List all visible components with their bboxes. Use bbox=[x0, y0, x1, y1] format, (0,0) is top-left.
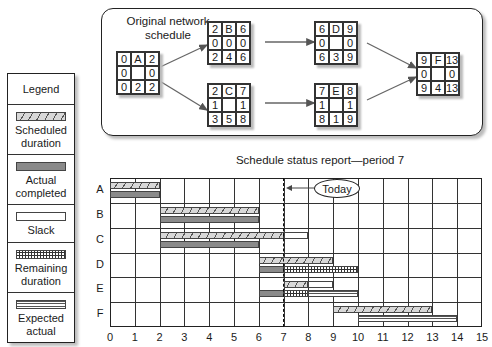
node-cell: 0 bbox=[222, 36, 236, 50]
remaining-swatch-icon bbox=[16, 250, 66, 259]
node-cell: 1 bbox=[343, 98, 357, 112]
network-node-f: 9F13009413 bbox=[416, 52, 460, 96]
node-cell: 1 bbox=[236, 98, 250, 112]
node-cell: 9 bbox=[417, 81, 431, 95]
node-cell: 9 bbox=[343, 50, 357, 64]
actual-bar-a bbox=[110, 191, 160, 198]
node-cell: 0 bbox=[445, 67, 459, 81]
node-cell: 0 bbox=[117, 80, 131, 94]
node-cell: A bbox=[131, 52, 145, 66]
legend-item-remaining: Remaining duration bbox=[8, 243, 74, 293]
network-node-b: 2B6000246 bbox=[207, 21, 251, 65]
node-cell: 13 bbox=[445, 81, 459, 95]
expected-bar-f bbox=[358, 315, 457, 322]
scheduled-swatch-icon bbox=[16, 112, 66, 121]
legend-label: Remaining duration bbox=[8, 262, 74, 288]
node-cell: 0 bbox=[145, 66, 159, 80]
network-node-a: 0A200022 bbox=[116, 51, 160, 95]
x-tick-label: 0 bbox=[100, 331, 120, 343]
actual-bar-d bbox=[259, 266, 284, 273]
node-cell: 2 bbox=[145, 80, 159, 94]
x-tick-label: 12 bbox=[398, 331, 418, 343]
x-tick-label: 3 bbox=[174, 331, 194, 343]
legend-item-slack: Slack bbox=[8, 205, 74, 243]
x-tick-label: 14 bbox=[447, 331, 467, 343]
node-cell: B bbox=[222, 22, 236, 36]
scheduled-bar-b bbox=[160, 207, 259, 214]
node-cell: 2 bbox=[208, 50, 222, 64]
slack-bar-c bbox=[284, 232, 309, 239]
node-cell: 2 bbox=[208, 84, 222, 98]
node-cell: 6 bbox=[315, 22, 329, 36]
node-cell: 0 bbox=[315, 36, 329, 50]
row-label: B bbox=[94, 208, 106, 220]
node-cell bbox=[329, 98, 343, 112]
scheduled-bar-d bbox=[259, 257, 333, 264]
scheduled-bar-f bbox=[333, 306, 432, 313]
x-tick-label: 7 bbox=[274, 331, 294, 343]
x-tick-label: 13 bbox=[422, 331, 442, 343]
legend-label: Actual completed bbox=[8, 174, 74, 200]
network-node-c: 2C711358 bbox=[207, 83, 251, 127]
row-label: A bbox=[94, 183, 106, 195]
legend-item-expected: Expected actual bbox=[8, 293, 74, 340]
x-tick-label: 6 bbox=[249, 331, 269, 343]
legend-item-actual: Actual completed bbox=[8, 155, 74, 205]
node-cell: 9 bbox=[417, 53, 431, 67]
actual-swatch-icon bbox=[16, 162, 66, 171]
node-cell: 9 bbox=[343, 22, 357, 36]
actual-bar-c bbox=[160, 241, 259, 248]
node-cell: C bbox=[222, 84, 236, 98]
chart-title: Schedule status report—period 7 bbox=[160, 154, 480, 166]
node-cell bbox=[431, 67, 445, 81]
node-cell: 0 bbox=[208, 36, 222, 50]
row-label: D bbox=[94, 258, 106, 270]
node-cell: 0 bbox=[117, 52, 131, 66]
node-cell: 0 bbox=[417, 67, 431, 81]
node-cell: 7 bbox=[315, 84, 329, 98]
node-cell: 2 bbox=[208, 22, 222, 36]
x-tick-label: 2 bbox=[150, 331, 170, 343]
grid-hline bbox=[111, 203, 481, 204]
actual-bar-e bbox=[259, 290, 284, 297]
x-tick-label: 10 bbox=[348, 331, 368, 343]
node-cell bbox=[222, 98, 236, 112]
node-cell: 6 bbox=[315, 50, 329, 64]
scheduled-bar-e bbox=[284, 281, 309, 288]
legend-label: Scheduled duration bbox=[8, 124, 74, 150]
node-cell: 9 bbox=[343, 112, 357, 126]
x-tick-label: 8 bbox=[298, 331, 318, 343]
node-cell: 0 bbox=[117, 66, 131, 80]
node-cell: D bbox=[329, 22, 343, 36]
node-cell bbox=[131, 66, 145, 80]
scheduled-bar-a bbox=[110, 182, 160, 189]
node-cell: 6 bbox=[236, 22, 250, 36]
node-cell: 1 bbox=[315, 98, 329, 112]
node-cell: 5 bbox=[222, 112, 236, 126]
legend-item-scheduled: Scheduled duration bbox=[8, 105, 74, 155]
remaining-bar-e bbox=[284, 290, 309, 297]
node-cell: 3 bbox=[208, 112, 222, 126]
today-arrow-icon bbox=[286, 183, 316, 193]
x-tick-label: 15 bbox=[472, 331, 492, 343]
x-tick-label: 11 bbox=[373, 331, 393, 343]
row-label: F bbox=[94, 307, 106, 319]
x-tick-label: 4 bbox=[199, 331, 219, 343]
network-node-e: 7E811819 bbox=[314, 83, 358, 127]
expected-bar-e bbox=[308, 290, 358, 297]
node-cell: 2 bbox=[131, 80, 145, 94]
node-cell: 13 bbox=[445, 53, 459, 67]
node-cell: 0 bbox=[236, 36, 250, 50]
remaining-bar-d bbox=[284, 266, 358, 273]
node-cell: 8 bbox=[236, 112, 250, 126]
grid-hline bbox=[111, 253, 481, 254]
legend-label: Expected actual bbox=[8, 312, 74, 338]
actual-bar-b bbox=[160, 216, 259, 223]
scheduled-bar-c bbox=[160, 232, 284, 239]
slack-swatch-icon bbox=[16, 212, 66, 221]
node-cell: 1 bbox=[329, 112, 343, 126]
legend-panel: Legend Scheduled duration Actual complet… bbox=[7, 73, 75, 343]
row-label: C bbox=[94, 233, 106, 245]
node-cell bbox=[329, 36, 343, 50]
expected-swatch-icon bbox=[16, 300, 66, 309]
